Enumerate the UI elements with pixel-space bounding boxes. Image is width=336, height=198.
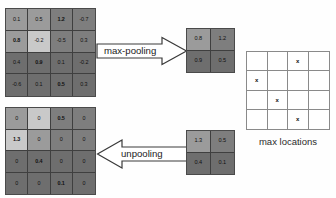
unpooled-map-cell-r4c3: 0.1 xyxy=(51,173,73,195)
unpooling-input-grid: 1.30.50.40.1 xyxy=(186,130,235,175)
max-locations-cell-r2c2 xyxy=(268,71,289,90)
unpooled-map-cell-r4c2: 0 xyxy=(28,173,50,195)
max-locations-cell-r2c4 xyxy=(309,71,330,90)
unpooled-map-cell-r3c2: 0.4 xyxy=(28,151,50,173)
unpooled-map-cell-r3c3: 0 xyxy=(51,151,73,173)
unpooling-label: unpooling xyxy=(121,148,163,159)
input-map-cell-r3c1: 0.4 xyxy=(6,53,28,75)
unpooled-map-cell-r1c1: 0 xyxy=(6,108,28,130)
unpool-source-cell-r1c1: 1.3 xyxy=(187,131,211,153)
input-map-cell-r3c3: 0.1 xyxy=(51,53,73,75)
unpool-source-cell-r1c2: 0.5 xyxy=(211,131,235,153)
max-locations-cell-r2c3 xyxy=(288,71,309,90)
unpooled-map-cell-r4c1: 0 xyxy=(6,173,28,195)
max-locations-caption: max locations xyxy=(240,136,336,147)
input-map-cell-r4c4: 0.3 xyxy=(73,74,95,96)
unpooled-map-cell-r1c3: 0.5 xyxy=(51,108,73,130)
input-map-cell-r1c3: 1.2 xyxy=(51,9,73,31)
input-map-cell-r2c1: 0.8 xyxy=(6,31,28,53)
pooled-map-cell-r1c1: 0.8 xyxy=(187,29,211,51)
input-map-cell-r1c2: 0.5 xyxy=(28,9,50,31)
max-locations-cell-r3c3 xyxy=(288,91,309,110)
max-locations-grid: xxxx xyxy=(246,51,330,130)
unpooled-map-cell-r2c1: 1.3 xyxy=(6,130,28,152)
max-locations-cell-r4c4 xyxy=(309,110,330,129)
unpooled-feature-map-grid: 000.501.300000.400000.10 xyxy=(5,107,96,195)
unpooled-map-cell-r3c1: 0 xyxy=(6,151,28,173)
max-location-marker-r2c1: x xyxy=(247,71,268,90)
max-locations-cell-r1c1 xyxy=(247,52,268,71)
unpool-source-cell-r2c1: 0.4 xyxy=(187,153,211,175)
input-map-cell-r1c4: -0.7 xyxy=(73,9,95,31)
input-map-cell-r3c2: 0.9 xyxy=(28,53,50,75)
input-map-cell-r2c2: -0.2 xyxy=(28,31,50,53)
pooled-map-cell-r1c2: 1.2 xyxy=(211,29,235,51)
input-map-cell-r2c4: 0.3 xyxy=(73,31,95,53)
unpooled-map-cell-r2c2: 0 xyxy=(28,130,50,152)
max-locations-cell-r3c1 xyxy=(247,91,268,110)
pooled-map-cell-r2c2: 0.5 xyxy=(211,51,235,73)
input-map-cell-r4c3: 0.5 xyxy=(51,74,73,96)
diagram-canvas: 0.10.51.2-0.70.8-0.2-0.50.30.40.90.1-0.2… xyxy=(0,0,336,198)
max-location-marker-r1c3: x xyxy=(288,52,309,71)
max-location-marker-r3c2: x xyxy=(268,91,289,110)
unpool-source-cell-r2c2: 0.1 xyxy=(211,153,235,175)
input-map-cell-r4c1: -0.6 xyxy=(6,74,28,96)
unpooled-map-cell-r3c4: 0 xyxy=(73,151,95,173)
unpooled-map-cell-r1c2: 0 xyxy=(28,108,50,130)
input-map-cell-r4c2: 0.1 xyxy=(28,74,50,96)
max-locations-cell-r4c1 xyxy=(247,110,268,129)
max-location-marker-r4c3: x xyxy=(288,110,309,129)
max-locations-cell-r1c4 xyxy=(309,52,330,71)
input-map-cell-r2c3: -0.5 xyxy=(51,31,73,53)
input-map-cell-r1c1: 0.1 xyxy=(6,9,28,31)
unpooled-map-cell-r4c4: 0 xyxy=(73,173,95,195)
unpooled-map-cell-r2c4: 0 xyxy=(73,130,95,152)
input-feature-map-grid: 0.10.51.2-0.70.8-0.2-0.50.30.40.90.1-0.2… xyxy=(5,8,96,97)
unpooled-map-cell-r1c4: 0 xyxy=(73,108,95,130)
input-map-cell-r3c4: -0.2 xyxy=(73,53,95,75)
max-locations-cell-r1c2 xyxy=(268,52,289,71)
pooled-map-cell-r2c1: 0.9 xyxy=(187,51,211,73)
max-locations-cell-r4c2 xyxy=(268,110,289,129)
max-pooled-output-grid: 0.81.20.90.5 xyxy=(186,28,235,73)
max-locations-cell-r3c4 xyxy=(309,91,330,110)
unpooled-map-cell-r2c3: 0 xyxy=(51,130,73,152)
max-pooling-label: max-pooling xyxy=(104,45,156,56)
